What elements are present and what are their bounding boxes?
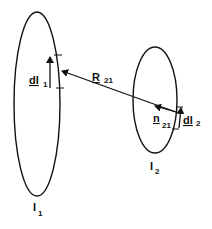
element-1-subscript: 1 xyxy=(43,80,48,89)
loop-2-current-subscript: 2 xyxy=(155,167,160,176)
element-1-label: dl xyxy=(29,74,39,86)
loop-2-current-label: I xyxy=(150,160,153,172)
unit-vector-subscript: 21 xyxy=(162,121,171,130)
separation-vector-label: R xyxy=(92,71,100,83)
diagram-canvas: dl 1 R 21 n 21 dl 2 I 2 I 1 xyxy=(0,0,212,229)
unit-vector-label: n xyxy=(153,112,160,124)
loop-2 xyxy=(133,47,177,153)
separation-vector-arrow xyxy=(62,71,176,112)
element-2-label: dl xyxy=(183,114,193,126)
loop-1 xyxy=(14,12,60,196)
separation-vector-subscript: 21 xyxy=(104,76,113,85)
element-2-subscript: 2 xyxy=(196,119,201,128)
loop-1-current-subscript: 1 xyxy=(38,209,43,218)
loop-1-current-label: I xyxy=(33,201,36,213)
element-2-arrow xyxy=(179,108,181,128)
